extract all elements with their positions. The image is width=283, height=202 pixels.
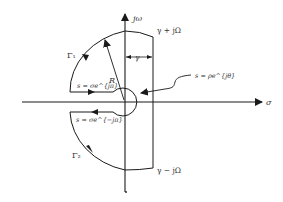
small-circle-leader: [141, 75, 191, 93]
jomega-label: jω: [131, 14, 142, 23]
sigma-label: σ: [266, 98, 272, 107]
gamma-width-arrow-left-icon: [126, 55, 131, 59]
axis-end-dot: [125, 191, 127, 193]
gamma-width-arrow-right-icon: [147, 55, 152, 59]
bottom-right-label: γ − jΩ: [157, 166, 181, 175]
upper-segment-label: s = σe^{jπ}: [77, 82, 118, 90]
top-right-label: γ + jΩ: [157, 26, 181, 35]
contour-diagram: jω σ γ + jΩ γ − jΩ γ R Γ₁ Γ₂ s = σe^{jπ}…: [0, 0, 283, 202]
gamma-width-label: γ: [135, 53, 140, 62]
gamma2-label: Γ₂: [72, 151, 81, 160]
gamma1-arrow-icon: [82, 54, 89, 61]
lower-segment-label: s = σe^{−jπ}: [76, 116, 123, 124]
small-circle-label: s = ρe^{jθ}: [195, 72, 235, 80]
gamma1-label: Γ₁: [67, 51, 76, 60]
lower-segment-arrow-icon: [91, 109, 98, 115]
